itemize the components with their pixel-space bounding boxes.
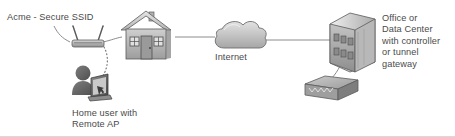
data-center-label: Office or Data Center with controller or…	[382, 13, 440, 70]
wireless-access-point-icon	[72, 26, 104, 47]
connection-lines	[54, 26, 340, 84]
link-ssid-label-leader	[54, 26, 70, 42]
home-user-label: Home user with Remote AP	[72, 108, 137, 131]
link-access-point-to-house	[103, 37, 122, 42]
network-topology-diagram: Acme - Secure SSID Internet Home user wi…	[0, 0, 455, 137]
internet-label: Internet	[215, 52, 247, 63]
house-icon	[121, 11, 171, 59]
user-with-laptop-icon	[72, 66, 112, 102]
building-icon	[330, 13, 375, 72]
ssid-label: Acme - Secure SSID	[7, 12, 94, 23]
cloud-icon	[215, 21, 266, 48]
network-switch-icon	[305, 76, 358, 100]
